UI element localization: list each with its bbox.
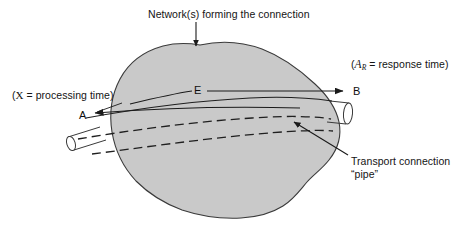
label-processing-time: (X = processing time)	[12, 89, 114, 102]
label-response-text: = response time)	[366, 58, 448, 70]
node-label-b: B	[353, 86, 360, 97]
label-pipe-line1: Transport connection	[351, 155, 450, 168]
diagram-canvas	[0, 0, 469, 242]
label-response-time: (AR = response time)	[351, 58, 449, 75]
label-transport-connection-pipe: Transport connection“pipe”	[351, 155, 450, 180]
label-processing-text: = processing time)	[24, 89, 114, 101]
left-pipe-end-icon	[65, 127, 106, 152]
label-processing-symbol: X	[16, 89, 24, 101]
transport-connection-diagram: Network(s) forming the connection (AR = …	[0, 0, 469, 242]
label-response-symbol: AR	[355, 58, 367, 70]
node-label-a: A	[79, 110, 86, 121]
label-pipe-line2: “pipe”	[351, 168, 450, 181]
label-network: Network(s) forming the connection	[148, 8, 310, 21]
node-label-e: E	[194, 85, 201, 96]
